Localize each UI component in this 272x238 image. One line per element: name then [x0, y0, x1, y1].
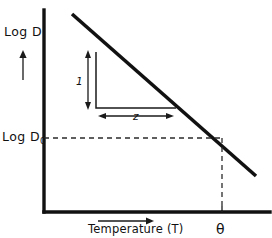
slope-rise-label: 1: [76, 75, 83, 87]
y-intercept-label: Log D: [2, 129, 40, 144]
theta-tick-label: θ: [216, 221, 225, 237]
y-axis-label: Log D: [4, 24, 42, 39]
slope-run-label: z: [132, 110, 139, 122]
thermal-death-time-plot: Log D Log D 0 Temperature (T) θ 1 z: [0, 0, 272, 238]
y-axis-arrow-icon: [19, 50, 26, 80]
y-intercept-subscript: 0: [40, 136, 45, 146]
figure-container: Log D Log D 0 Temperature (T) θ 1 z: [0, 0, 272, 238]
slope-triangle: [96, 52, 176, 108]
data-line-logd-vs-temperature: [72, 14, 256, 176]
x-axis-label: Temperature (T): [87, 222, 184, 236]
rise-double-arrow-icon: [85, 50, 91, 110]
